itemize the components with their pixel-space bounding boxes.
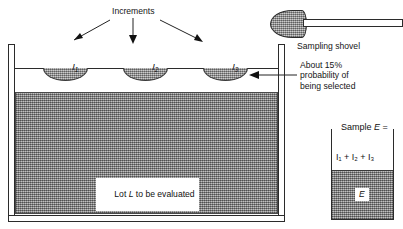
sample-container-right-wall	[393, 129, 394, 220]
sampling-diagram: Lot L to be evaluated I1 I2 I3 Increment…	[0, 0, 403, 229]
sample-fill-label: E	[355, 188, 369, 201]
sample-e-header: Sample E =	[331, 112, 388, 142]
probability-note-line2: probability of	[300, 70, 400, 80]
probability-note-line1: About 15%	[300, 60, 400, 70]
sample-sum-expression: I₁ + I₂ + I₃	[336, 152, 374, 162]
probability-note-line3: being selected	[300, 81, 400, 91]
sample-container-bottom-wall	[331, 219, 394, 220]
probability-note: About 15% probability of being selected	[300, 60, 400, 91]
